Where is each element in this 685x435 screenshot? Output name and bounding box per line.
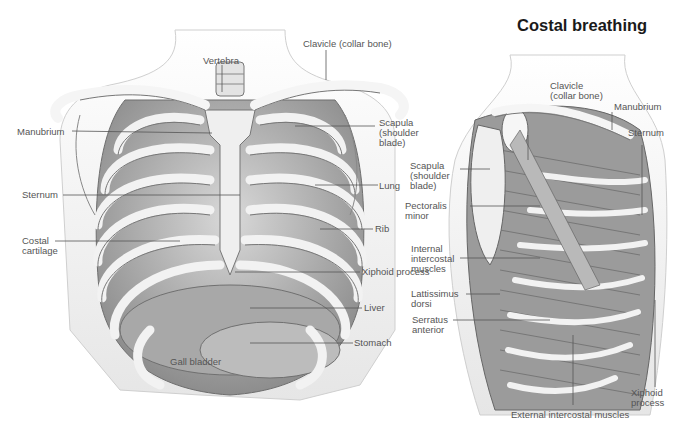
label-serratus-anterior: Serratus anterior — [412, 315, 448, 335]
label-clavicle-side: Clavicle (collar bone) — [550, 81, 603, 101]
label-liver: Liver — [364, 303, 385, 313]
anatomy-figure: Vertebra Clavicle (collar bone) Manubriu… — [0, 0, 685, 435]
label-scapula-side: Scapula (shoulder blade) — [410, 161, 450, 191]
label-manubrium: Manubrium — [17, 127, 65, 137]
panel-title-costal-breathing: Costal breathing — [517, 16, 647, 35]
anatomy-illustration — [0, 0, 685, 435]
label-sternum: Sternum — [22, 190, 58, 200]
label-costal-cartilage: Costal cartilage — [22, 236, 58, 256]
label-manubrium-side: Manubrium — [614, 102, 662, 112]
label-sternum-side: Sternum — [628, 128, 664, 138]
label-scapula: Scapula (shoulder blade) — [379, 118, 419, 148]
label-rib: Rib — [375, 224, 389, 234]
label-external-intercostal-muscles: External intercostal muscles — [511, 410, 629, 420]
label-stomach: Stomach — [354, 338, 392, 348]
label-clavicle: Clavicle (collar bone) — [303, 39, 392, 49]
label-lung: Lung — [379, 181, 400, 191]
label-gall-bladder: Gall bladder — [170, 357, 221, 367]
label-pectoralis-minor: Pectoralis minor — [405, 201, 447, 221]
label-internal-intercostal-muscles: Internal intercostal muscles — [411, 244, 454, 274]
label-lattissimus-dorsi: Lattissimus dorsi — [411, 289, 459, 309]
front-ribcage-illustration — [55, 30, 404, 400]
label-xiphoid-process-side: Xiphoid process — [631, 388, 664, 408]
label-vertebra: Vertebra — [203, 56, 239, 66]
